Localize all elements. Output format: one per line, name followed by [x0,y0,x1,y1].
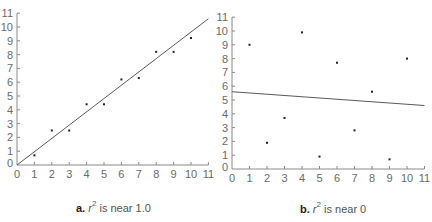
x-tick-label: 10 [185,168,197,180]
data-point [51,130,53,132]
y-tick-label: 4 [222,108,228,120]
x-tick-label: 1 [31,168,37,180]
data-point [249,44,251,46]
y-tick-label: 9 [7,35,13,47]
caption-a-label: a. [76,202,85,214]
y-tick-label: 5 [222,94,228,106]
y-tick-label: 3 [7,118,13,130]
x-tick-label: 9 [386,172,392,184]
data-point [103,103,105,105]
x-tick-label: 7 [136,168,142,180]
x-tick-label: 11 [419,172,430,184]
data-point [371,91,373,93]
y-tick-label: 10 [1,21,13,33]
x-tick-label: 8 [153,168,159,180]
caption-b-label: b. [300,203,310,215]
data-point [389,158,391,160]
regression-line [17,19,208,165]
x-tick-label: 6 [334,172,340,184]
scatter-panel-b: 0123456789101101234567891011 [216,11,430,184]
x-tick-label: 11 [203,168,214,180]
y-tick-label: 0 [222,161,228,173]
y-tick-label: 6 [222,80,228,92]
y-tick-label: 6 [7,76,13,88]
x-tick-label: 6 [118,168,124,180]
caption-b-symbol: r [313,203,317,215]
data-point [190,37,192,39]
caption-b: b. r2 is near 0 [300,201,366,215]
y-tick-label: 0 [7,157,13,169]
y-tick-label: 5 [7,90,13,102]
y-tick-label: 4 [7,104,13,116]
caption-a-text: is near 1.0 [99,202,150,214]
data-point [266,142,268,144]
caption-a-exponent: 2 [92,199,96,208]
x-tick-label: 2 [49,168,55,180]
x-tick-label: 8 [369,172,375,184]
caption-b-exponent: 2 [317,200,321,209]
data-point [33,154,35,156]
x-tick-label: 0 [14,168,20,180]
scatter-panel-a: 0123456789101101234567891011 [1,7,214,180]
data-point [319,156,321,158]
y-tick-label: 7 [222,66,228,78]
data-point [301,31,303,33]
y-tick-label: 10 [216,25,228,37]
y-tick-label: 7 [7,62,13,74]
y-tick-label: 8 [7,49,13,61]
caption-b-text: is near 0 [324,203,366,215]
caption-a: a. r2 is near 1.0 [76,200,151,214]
y-tick-label: 11 [2,7,13,19]
x-tick-label: 9 [171,168,177,180]
data-point [138,77,140,79]
y-tick-label: 9 [222,39,228,51]
y-tick-label: 1 [222,149,228,161]
data-point [86,103,88,105]
data-point [406,58,408,60]
x-tick-label: 7 [351,172,357,184]
x-tick-label: 5 [101,168,107,180]
x-tick-label: 5 [316,172,322,184]
x-tick-label: 10 [401,172,413,184]
x-tick-label: 1 [246,172,252,184]
x-tick-label: 3 [281,172,287,184]
x-tick-label: 0 [229,172,235,184]
data-point [120,78,122,80]
x-tick-label: 4 [299,172,305,184]
y-tick-label: 8 [222,53,228,65]
x-tick-label: 3 [66,168,72,180]
y-tick-label: 2 [222,135,228,147]
y-tick-label: 11 [217,11,228,23]
y-tick-label: 2 [7,131,13,143]
scatter-plots-figure: 0123456789101101234567891011 01234567891… [0,0,432,222]
y-tick-label: 3 [222,122,228,134]
x-tick-label: 4 [84,168,90,180]
regression-line [232,92,425,106]
data-point [284,117,286,119]
y-tick-label: 1 [7,145,13,157]
data-point [354,129,356,131]
data-point [68,130,70,132]
x-tick-label: 2 [264,172,270,184]
data-point [155,51,157,53]
data-point [336,62,338,64]
data-point [173,51,175,53]
